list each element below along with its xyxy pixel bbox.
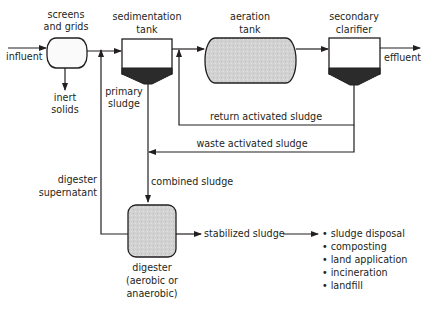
- waste-activated-sludge-flow: waste activated sludge: [149, 125, 354, 152]
- clarifier-label-1: secondary: [329, 11, 379, 22]
- effluent-label: effluent: [384, 52, 421, 63]
- disposal-options-list: • sludge disposal • composting • land ap…: [322, 228, 407, 291]
- aeration-box: [205, 38, 296, 83]
- sedimentation-label-1: sedimentation: [112, 11, 181, 22]
- disposal-option: • composting: [322, 241, 387, 252]
- wastewater-treatment-diagram: influent screens and grids inert solids …: [0, 0, 426, 312]
- screens-and-grids-node: screens and grids inert solids: [44, 9, 89, 115]
- combined-sludge-label: combined sludge: [151, 176, 233, 187]
- disposal-option: • land application: [322, 254, 407, 265]
- disposal-option: • landfill: [322, 280, 363, 291]
- sedimentation-tank-node: sedimentation tank primary sludge: [105, 11, 181, 202]
- screens-label-2: and grids: [44, 21, 89, 32]
- primary-label-2: sludge: [108, 98, 140, 109]
- influent-flow: influent: [6, 48, 46, 62]
- inert-label-1: inert: [54, 92, 77, 103]
- supernatant-line: [101, 50, 128, 234]
- secondary-clarifier-node: secondary clarifier effluent: [329, 11, 421, 85]
- sedimentation-label-2: tank: [136, 24, 158, 35]
- stabilized-label: stabilized sludge: [204, 228, 285, 239]
- disposal-option: • sludge disposal: [322, 228, 405, 239]
- supernatant-label-1: digester: [58, 174, 97, 185]
- aeration-tank-node: aeration tank: [205, 11, 296, 83]
- supernatant-label-2: supernatant: [39, 187, 98, 198]
- digester-label-2: (aerobic or: [126, 275, 178, 286]
- waste-label: waste activated sludge: [196, 138, 307, 149]
- digester-box: [128, 205, 176, 257]
- disposal-option: • incineration: [322, 267, 388, 278]
- inert-label-2: solids: [51, 104, 78, 115]
- digester-label-3: anaerobic): [126, 288, 177, 299]
- influent-label: influent: [6, 51, 43, 62]
- digester-supernatant-flow: digester supernatant: [39, 50, 128, 234]
- screens-label-1: screens: [48, 9, 85, 20]
- sedimentation-sludge-hopper: [122, 68, 172, 84]
- screens-box: [47, 38, 87, 68]
- return-label: return activated sludge: [210, 111, 322, 122]
- primary-label-1: primary: [105, 86, 143, 97]
- stabilized-sludge-flow: stabilized sludge: [176, 228, 318, 239]
- digester-label-1: digester: [132, 262, 171, 273]
- clarifier-sludge-hopper: [329, 68, 380, 85]
- aeration-label-2: tank: [239, 24, 261, 35]
- clarifier-label-2: clarifier: [336, 24, 372, 35]
- aeration-label-1: aeration: [230, 11, 270, 22]
- digester-node: digester (aerobic or anaerobic): [126, 205, 178, 299]
